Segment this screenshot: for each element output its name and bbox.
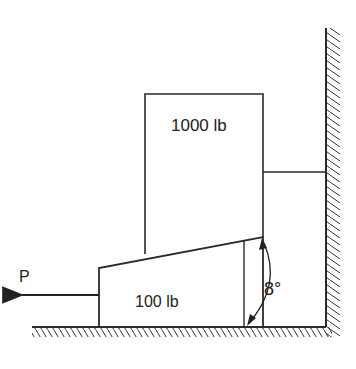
wedge (99, 237, 263, 327)
upper-block-label: 1000 lb (171, 116, 227, 135)
wedge-diagram: 1000 lb 100 lb P 8° (0, 0, 356, 369)
ground (32, 327, 332, 337)
wedge-label: 100 lb (135, 293, 179, 310)
angle-label: 8° (264, 279, 281, 299)
force-label: P (19, 268, 30, 285)
wall (326, 28, 340, 337)
